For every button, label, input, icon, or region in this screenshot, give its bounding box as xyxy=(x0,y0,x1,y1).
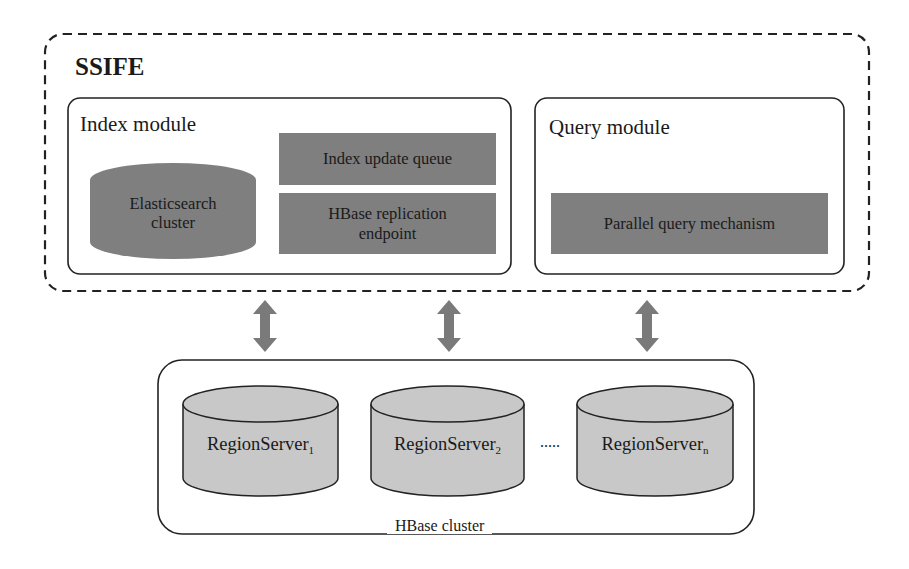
index-update-queue-text: Index update queue xyxy=(323,149,452,168)
elasticsearch-cluster-label: Elasticsearch cluster xyxy=(90,190,256,236)
query-module-label: Query module xyxy=(549,117,670,138)
regionserver-name: RegionServer xyxy=(207,434,309,454)
regionserver-subscript: 1 xyxy=(309,444,315,456)
parallel-query-mechanism-label: Parallel query mechanism xyxy=(551,193,828,254)
hbase-cluster-label: HBase cluster xyxy=(387,518,492,534)
bidirectional-arrow-icon xyxy=(437,300,461,352)
ssife-title: SSIFE xyxy=(75,54,144,79)
regionserver-2-label: RegionServer2 xyxy=(371,430,524,460)
regionserver-subscript: n xyxy=(703,444,709,456)
elasticsearch-line1: Elasticsearch xyxy=(129,194,216,213)
regionserver-1-label: RegionServer1 xyxy=(183,430,338,460)
parallel-query-text: Parallel query mechanism xyxy=(604,214,775,233)
hbase-replication-endpoint-label: HBase replication endpoint xyxy=(279,193,496,254)
hbase-replication-line2: endpoint xyxy=(359,224,417,243)
more-servers-ellipsis: ..... xyxy=(540,434,560,450)
regionserver-n-label: RegionServern xyxy=(577,430,733,460)
regionserver-name: RegionServer xyxy=(601,434,703,454)
index-module-label: Index module xyxy=(80,114,196,135)
regionserver-subscript: 2 xyxy=(496,444,502,456)
index-update-queue-label: Index update queue xyxy=(279,133,496,185)
bidirectional-arrow-icon xyxy=(253,300,277,352)
elasticsearch-line2: cluster xyxy=(151,213,195,232)
architecture-diagram xyxy=(0,0,909,569)
regionserver-name: RegionServer xyxy=(394,434,496,454)
bidirectional-arrow-icon xyxy=(635,300,659,352)
hbase-replication-line1: HBase replication xyxy=(328,204,447,223)
